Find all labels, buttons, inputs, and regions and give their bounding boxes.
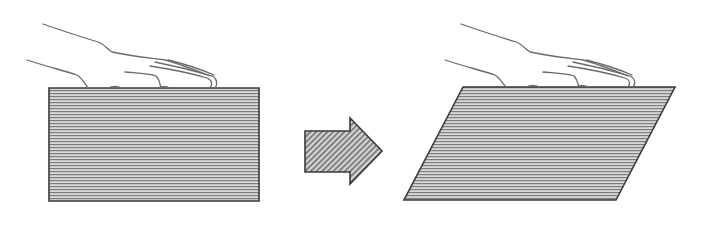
right-arrow-icon bbox=[305, 118, 382, 184]
sheared-block bbox=[404, 87, 675, 200]
shear-diagram bbox=[0, 0, 706, 235]
before-figure bbox=[27, 24, 259, 201]
after-figure bbox=[404, 24, 675, 200]
hand-icon bbox=[27, 24, 217, 88]
hand-icon bbox=[445, 24, 635, 87]
undeformed-block bbox=[49, 88, 259, 201]
